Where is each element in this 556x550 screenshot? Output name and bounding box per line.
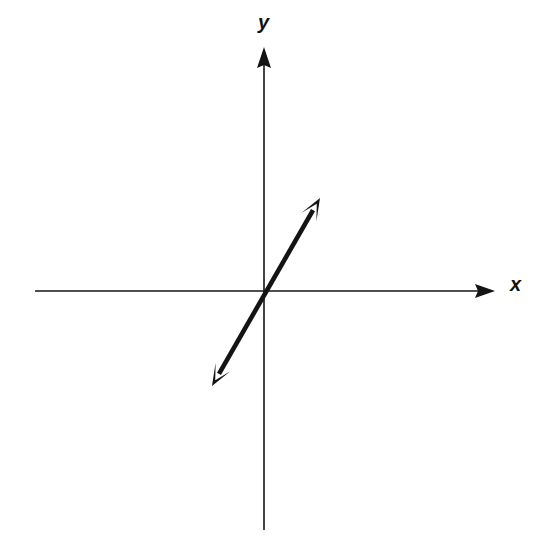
x-axis-label: x [510, 274, 521, 294]
figure-canvas [0, 0, 556, 550]
coordinate-plane-figure: y x [0, 0, 556, 550]
y-axis-label: y [258, 12, 269, 32]
